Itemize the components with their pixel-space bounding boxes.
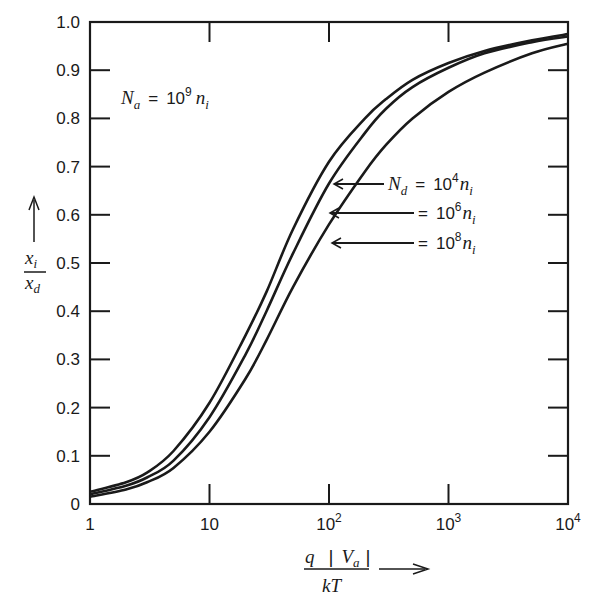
svg-text:xd: xd [24,272,40,296]
y-tick-label: 0 [71,495,80,514]
x-tick-label: 102 [316,511,342,534]
y-tick-label: 0.4 [56,302,80,321]
y-tick-label: 0.7 [56,158,80,177]
x-tick-label: 103 [436,511,462,534]
y-tick-label: 0.1 [56,447,80,466]
nd-1e6-label: =106ni [330,200,476,227]
nd-1e8-label: =108ni [332,230,476,257]
x-tick-label: 10 [200,515,219,534]
plot-frame [90,22,568,504]
x-axis-label: q|Va| kT [304,546,428,596]
chart: 00.10.20.30.40.50.60.70.80.91.0 11010210… [0,0,601,601]
x-axis-ticks: 110102103104 [85,22,581,534]
y-tick-label: 0.9 [56,61,80,80]
y-tick-label: 1.0 [56,13,80,32]
svg-text:Nd=104ni: Nd=104ni [387,171,473,198]
svg-text:=106ni: =106ni [418,200,476,227]
svg-text:=108ni: =108ni [418,230,476,257]
y-tick-label: 0.3 [56,350,80,369]
svg-text:kT: kT [322,575,342,596]
nd-1e4-label: Nd=104ni [334,171,473,198]
y-tick-label: 0.8 [56,109,80,128]
svg-text:xi: xi [24,247,37,271]
data-curves [90,34,568,497]
x-tick-label: 1 [85,515,94,534]
curve-series-2 [90,44,568,497]
y-tick-label: 0.6 [56,206,80,225]
curve-series-1 [90,37,568,495]
y-tick-label: 0.5 [56,254,80,273]
y-tick-label: 0.2 [56,399,80,418]
x-tick-label: 104 [555,511,581,534]
na-annotation: Na=109ni [120,85,209,112]
y-axis-label: xi xd [24,197,46,296]
svg-text:q|Va|: q|Va| [305,546,370,570]
curve-series-0 [90,34,568,492]
